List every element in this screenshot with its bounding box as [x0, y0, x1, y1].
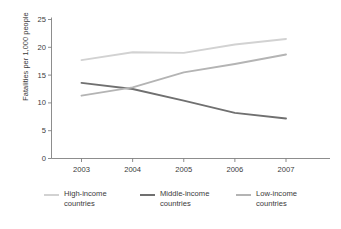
legend-label-line2: countries	[160, 199, 209, 209]
y-axis-tick-label: 5	[24, 126, 46, 135]
legend-label-line1: High-income	[64, 189, 107, 199]
x-axis-tick-label: 2004	[113, 165, 153, 174]
x-axis-tick-label: 2005	[164, 165, 204, 174]
series-line-low-income-countries	[82, 55, 287, 96]
legend-label: High-incomecountries	[64, 189, 107, 208]
line-chart: Fatalities per 1,000 people 0510152025 2…	[0, 0, 341, 229]
series-line-high-income-countries	[82, 39, 287, 60]
legend-label-line2: countries	[64, 199, 107, 209]
legend-swatch-icon	[236, 194, 251, 196]
legend-label-line1: Middle-income	[160, 189, 209, 199]
legend-item-mid-income[interactable]: Middle-incomecountries	[140, 189, 236, 208]
chart-legend: High-incomecountriesMiddle-incomecountri…	[44, 189, 334, 208]
legend-label: Middle-incomecountries	[160, 189, 209, 208]
legend-label-line1: Low-income	[256, 189, 297, 199]
y-axis-tick-label: 0	[24, 154, 46, 163]
x-axis-tick-label: 2003	[62, 165, 102, 174]
y-axis-tick-label: 15	[24, 71, 46, 80]
series-line-middle-income-countries	[82, 83, 287, 119]
x-axis-tick-label: 2007	[266, 165, 306, 174]
y-axis-tick-label: 25	[24, 15, 46, 24]
legend-label: Low-incomecountries	[256, 189, 297, 208]
legend-item-low-income[interactable]: Low-incomecountries	[236, 189, 331, 208]
x-axis-tick-label: 2006	[215, 165, 255, 174]
y-axis-tick-label: 20	[24, 43, 46, 52]
y-axis-tick-label: 10	[24, 98, 46, 107]
legend-swatch-icon	[44, 194, 59, 196]
legend-item-hi-income[interactable]: High-incomecountries	[44, 189, 140, 208]
legend-label-line2: countries	[256, 199, 297, 209]
legend-swatch-icon	[140, 194, 155, 196]
